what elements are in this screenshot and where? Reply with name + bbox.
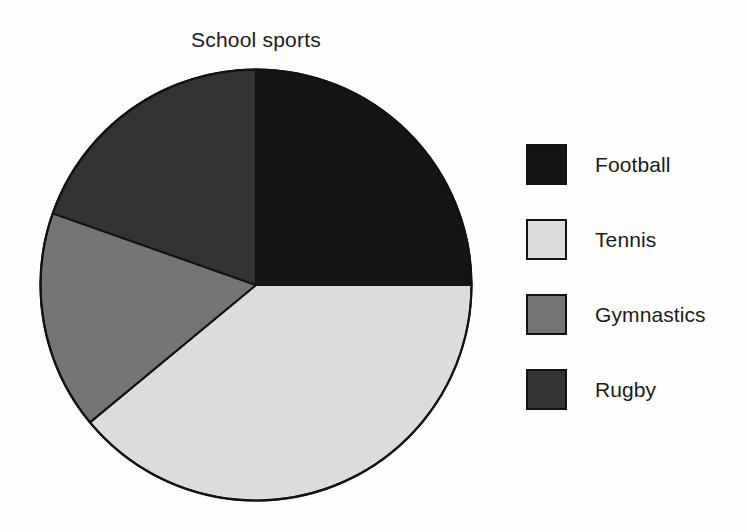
legend-label: Rugby bbox=[595, 378, 656, 402]
legend-label: Tennis bbox=[595, 228, 656, 252]
legend-label: Football bbox=[595, 153, 671, 177]
legend-swatch-gymnastics bbox=[526, 294, 567, 335]
legend-swatch-tennis bbox=[526, 219, 567, 260]
legend-swatch-football bbox=[526, 144, 567, 185]
chart-canvas: School sports FootballTennisGymnasticsRu… bbox=[0, 0, 747, 532]
pie-chart-svg bbox=[38, 67, 474, 503]
legend-swatch-rugby bbox=[526, 369, 567, 410]
legend-label: Gymnastics bbox=[595, 303, 706, 327]
legend-item-football[interactable]: Football bbox=[526, 142, 731, 187]
legend-item-rugby[interactable]: Rugby bbox=[526, 367, 731, 412]
legend-item-gymnastics[interactable]: Gymnastics bbox=[526, 292, 731, 337]
pie-slice-football[interactable] bbox=[256, 70, 472, 286]
legend: FootballTennisGymnasticsRugby bbox=[526, 142, 731, 412]
pie-slice-group bbox=[41, 70, 472, 501]
page-title: School sports bbox=[0, 28, 512, 52]
legend-item-tennis[interactable]: Tennis bbox=[526, 217, 731, 262]
pie-chart bbox=[38, 67, 474, 503]
